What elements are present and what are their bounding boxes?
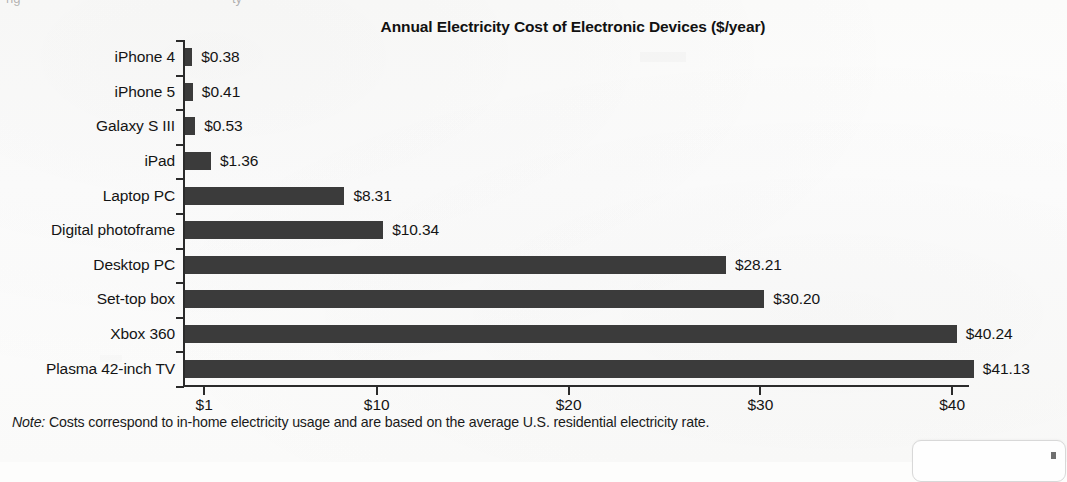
- y-axis-tick: [176, 248, 184, 250]
- bar-value-label: $0.41: [202, 83, 240, 101]
- bar-row: Laptop PC$8.31: [0, 178, 1067, 213]
- category-label: Digital photoframe: [51, 221, 175, 239]
- x-axis-tick: [759, 387, 761, 395]
- y-axis-tick: [176, 213, 184, 215]
- y-axis-tick: [176, 144, 184, 146]
- x-axis-tick-label: $10: [364, 396, 390, 414]
- bar-value-label: $0.38: [201, 48, 239, 66]
- cropped-text-remnant: ng ty: [0, 0, 1067, 8]
- y-axis-tick: [176, 75, 184, 77]
- bar-row: Galaxy S III$0.53: [0, 109, 1067, 144]
- top-fragment-left: ng: [6, 0, 20, 6]
- x-axis-tick: [568, 387, 570, 395]
- bar: [185, 256, 726, 274]
- bar-value-label: $8.31: [353, 187, 391, 205]
- top-fragment-right: ty: [232, 0, 242, 6]
- category-label: Plasma 42-inch TV: [46, 360, 175, 378]
- bar: [185, 83, 193, 101]
- y-axis-tick: [176, 282, 184, 284]
- bar-value-label: $40.24: [966, 325, 1013, 343]
- category-label: iPhone 5: [115, 83, 175, 101]
- note-text: Costs correspond to in-home electricity …: [45, 414, 709, 430]
- category-label: Desktop PC: [93, 256, 175, 274]
- y-axis-tick: [176, 351, 184, 353]
- cropped-widget-box[interactable]: [912, 440, 1066, 482]
- bar-value-label: $1.36: [220, 152, 258, 170]
- x-axis-tick-label: $1: [196, 396, 213, 414]
- bar-value-label: $28.21: [735, 256, 782, 274]
- bar-value-label: $30.20: [773, 290, 820, 308]
- x-axis-tick: [203, 387, 205, 395]
- bar: [185, 152, 211, 170]
- note-prefix-label: Note:: [12, 414, 45, 430]
- y-axis-tick: [176, 40, 184, 42]
- bar-row: iPad$1.36: [0, 144, 1067, 179]
- bar: [185, 221, 383, 239]
- bar: [185, 290, 764, 308]
- bar-row: Plasma 42-inch TV$41.13: [0, 351, 1067, 386]
- bar-row: Xbox 360$40.24: [0, 317, 1067, 352]
- bar: [185, 187, 344, 205]
- bar-row: iPhone 5$0.41: [0, 75, 1067, 110]
- category-label: Set-top box: [97, 290, 175, 308]
- category-label: iPad: [144, 152, 175, 170]
- bar-value-label: $0.53: [204, 117, 242, 135]
- y-axis-tick: [176, 386, 184, 388]
- y-axis-tick: [176, 109, 184, 111]
- category-label: Xbox 360: [110, 325, 175, 343]
- bar: [185, 325, 957, 343]
- bar-value-label: $41.13: [983, 360, 1030, 378]
- chart-title: Annual Electricity Cost of Electronic De…: [183, 18, 963, 36]
- x-axis-tick-label: $30: [747, 396, 773, 414]
- bar: [185, 117, 195, 135]
- y-axis-tick: [176, 317, 184, 319]
- x-axis-tick: [376, 387, 378, 395]
- category-label: iPhone 4: [115, 48, 175, 66]
- category-label: Galaxy S III: [96, 117, 175, 135]
- y-axis-tick: [176, 178, 184, 180]
- widget-indicator-icon: [1051, 452, 1056, 459]
- chart-note: Note: Costs correspond to in-home electr…: [12, 414, 709, 430]
- x-axis-tick-label: $20: [556, 396, 582, 414]
- bar: [185, 48, 192, 66]
- bar-row: iPhone 4$0.38: [0, 40, 1067, 75]
- bar-row: Set-top box$30.20: [0, 282, 1067, 317]
- category-label: Laptop PC: [103, 187, 175, 205]
- bar: [185, 360, 974, 378]
- bar-row: Digital photoframe$10.34: [0, 213, 1067, 248]
- bar-row: Desktop PC$28.21: [0, 248, 1067, 283]
- bar-value-label: $10.34: [392, 221, 439, 239]
- x-axis-tick-label: $40: [939, 396, 965, 414]
- x-axis-tick: [951, 387, 953, 395]
- chart-plot-area: iPhone 4$0.38iPhone 5$0.41Galaxy S III$0…: [0, 38, 1067, 388]
